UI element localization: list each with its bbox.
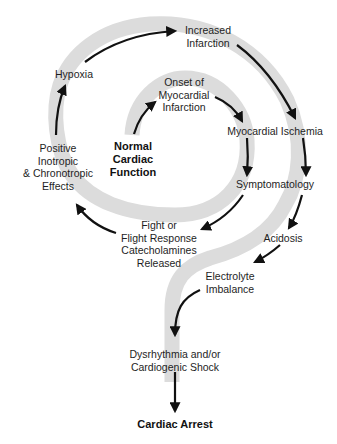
arrow-ischemia-to-symptoms xyxy=(247,138,248,175)
node-cardiac-arrest: Cardiac Arrest xyxy=(137,418,212,431)
node-hypoxia: Hypoxia xyxy=(55,68,93,81)
arrow-acidosis-to-electrolyte xyxy=(255,245,280,262)
node-electrolyte-imbalance: Electrolyte Imbalance xyxy=(205,270,254,295)
node-dysrhythmia-shock: Dysrhythmia and/or Cardiogenic Shock xyxy=(129,348,220,373)
node-increased-infarction: Increased Infarction xyxy=(185,24,231,49)
node-acidosis: Acidosis xyxy=(263,232,302,245)
node-normal-cardiac-function: Normal Cardiac Function xyxy=(110,140,156,179)
spiral-diagram: Normal Cardiac Function Onset of Myocard… xyxy=(0,0,337,444)
node-positive-inotropic-effects: Positive Inotropic & Chronotropic Effect… xyxy=(23,142,93,192)
node-fight-or-flight: Fight or Flight Response Catecholamines … xyxy=(121,219,197,269)
node-myocardial-ischemia: Myocardial Ischemia xyxy=(227,125,323,138)
node-onset-myocardial-infarction: Onset of Myocardial Infarction xyxy=(159,76,210,114)
node-symptomatology: Symptomatology xyxy=(236,178,314,191)
